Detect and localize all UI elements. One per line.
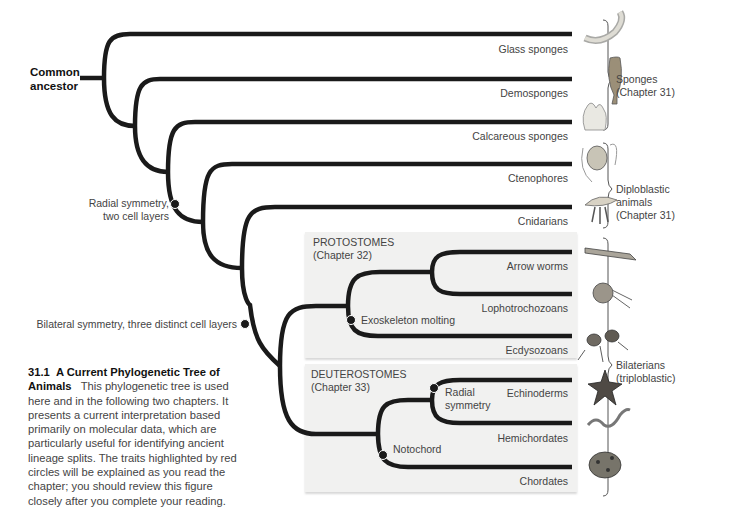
trait-dot-notochord	[379, 451, 388, 460]
trait-dot-radial-two-layers	[171, 200, 180, 209]
taxon-label-calcareous-sponges: Calcareous sponges	[472, 130, 568, 143]
taxon-label-ctenophores: Ctenophores	[508, 172, 568, 185]
figure-caption: 31.1 A Current Phylogenetic Tree of Anim…	[28, 365, 238, 508]
trait-label-exoskeleton: Exoskeleton molting	[361, 314, 455, 327]
protostomes-title: PROTOSTOMES (Chapter 32)	[313, 236, 394, 262]
caption-body: This phylogenetic tree is used here and …	[28, 380, 237, 506]
trait-label-bilateral: Bilateral symmetry, three distinct cell …	[36, 318, 237, 331]
taxon-label-demosponges: Demosponges	[500, 87, 568, 100]
caption-number: 31.1	[28, 366, 50, 378]
trait-dot-radial-symmetry	[430, 384, 439, 393]
trait-label-radial-two-layers: Radial symmetry, two cell layers	[89, 197, 169, 223]
taxon-label-ecdysozoans: Ecdysozoans	[506, 344, 568, 357]
group-label-bilaterians: Bilaterians (triploblastic)	[616, 359, 676, 385]
trait-dot-bilateral	[241, 320, 250, 329]
taxon-label-chordates: Chordates	[520, 475, 568, 488]
trait-label-radial-symmetry: Radial symmetry	[445, 386, 491, 412]
trait-dot-exoskeleton	[347, 316, 356, 325]
taxon-label-arrow-worms: Arrow worms	[507, 260, 568, 273]
deuterostomes-title: DEUTEROSTOMES (Chapter 33)	[311, 368, 406, 394]
taxon-label-hemichordates: Hemichordates	[497, 432, 568, 445]
taxon-label-lophotrochozoans: Lophotrochozoans	[482, 302, 568, 315]
trait-label-notochord: Notochord	[393, 443, 441, 456]
group-label-diploblastic: Diploblastic animals (Chapter 31)	[616, 183, 675, 222]
group-label-sponges: Sponges (Chapter 31)	[616, 73, 675, 99]
taxon-label-cnidarians: Cnidarians	[518, 215, 568, 228]
taxon-label-echinoderms: Echinoderms	[507, 387, 568, 400]
taxon-label-glass-sponges: Glass sponges	[499, 43, 568, 56]
common-ancestor-label: Common ancestor	[30, 65, 80, 93]
